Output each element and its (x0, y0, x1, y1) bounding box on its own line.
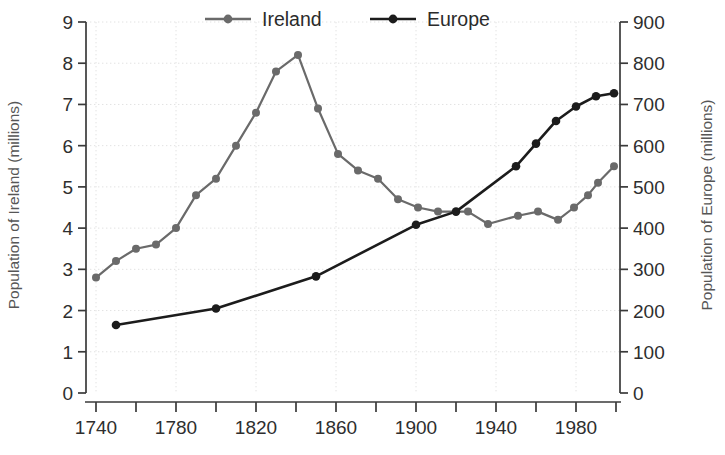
data-point (464, 208, 472, 216)
data-point (312, 272, 321, 281)
left-axis-tick-label: 4 (62, 218, 73, 239)
data-point (112, 257, 120, 265)
x-axis-tick-label: 1900 (395, 417, 437, 438)
right-axis-tick-label: 800 (633, 53, 665, 74)
x-axis-tick-label: 1860 (315, 417, 357, 438)
left-axis-tick-label: 9 (62, 12, 73, 33)
right-axis-tick-label: 900 (633, 12, 665, 33)
data-point (112, 321, 121, 330)
right-axis-tick-label: 100 (633, 342, 665, 363)
data-point (152, 241, 160, 249)
right-axis-tick-label: 400 (633, 218, 665, 239)
chart-container: 0123456789010020030040050060070080090017… (0, 0, 725, 455)
data-point (484, 220, 492, 228)
x-axis-tick-label: 1780 (155, 417, 197, 438)
data-point (610, 162, 618, 170)
data-point (554, 216, 562, 224)
data-point (594, 179, 602, 187)
left-axis-tick-label: 5 (62, 177, 73, 198)
data-point (212, 175, 220, 183)
right-axis-tick-label: 200 (633, 301, 665, 322)
data-point (434, 208, 442, 216)
data-point (314, 105, 322, 113)
data-point (412, 221, 421, 230)
left-axis-tick-label: 8 (62, 53, 73, 74)
data-point (552, 117, 561, 126)
legend-marker (224, 15, 233, 24)
data-point (272, 67, 280, 75)
data-point (534, 208, 542, 216)
chart-background (0, 0, 725, 455)
right-axis-tick-label: 300 (633, 259, 665, 280)
data-point (610, 89, 619, 98)
data-point (570, 204, 578, 212)
right-axis-tick-label: 700 (633, 94, 665, 115)
left-axis-tick-label: 6 (62, 136, 73, 157)
data-point (394, 195, 402, 203)
data-point (374, 175, 382, 183)
left-axis-tick-label: 1 (62, 342, 73, 363)
left-axis-title: Population of Ireland (millions) (5, 101, 22, 310)
data-point (294, 51, 302, 59)
data-point (252, 109, 260, 117)
data-point (172, 224, 180, 232)
left-axis-tick-label: 0 (62, 383, 73, 404)
data-point (532, 139, 541, 148)
right-axis-tick-label: 600 (633, 136, 665, 157)
data-point (132, 245, 140, 253)
dual-axis-line-chart: 0123456789010020030040050060070080090017… (0, 0, 725, 455)
data-point (334, 150, 342, 158)
data-point (514, 212, 522, 220)
right-axis-tick-label: 0 (633, 383, 644, 404)
right-axis-tick-label: 500 (633, 177, 665, 198)
x-axis-tick-label: 1740 (75, 417, 117, 438)
data-point (572, 102, 581, 111)
data-point (414, 204, 422, 212)
left-axis-tick-label: 3 (62, 259, 73, 280)
legend-label: Ireland (262, 8, 322, 30)
data-point (354, 166, 362, 174)
data-point (192, 191, 200, 199)
x-axis-tick-label: 1980 (555, 417, 597, 438)
right-axis-title: Population of Europe (millions) (698, 99, 715, 310)
legend-label: Europe (427, 8, 490, 30)
data-point (452, 207, 461, 216)
x-axis-tick-label: 1820 (235, 417, 277, 438)
data-point (592, 92, 601, 101)
data-point (212, 304, 221, 313)
data-point (232, 142, 240, 150)
data-point (512, 162, 521, 171)
left-axis-tick-label: 2 (62, 301, 73, 322)
legend-marker (389, 15, 398, 24)
data-point (584, 191, 592, 199)
left-axis-tick-label: 7 (62, 94, 73, 115)
x-axis-tick-label: 1940 (475, 417, 517, 438)
data-point (92, 274, 100, 282)
